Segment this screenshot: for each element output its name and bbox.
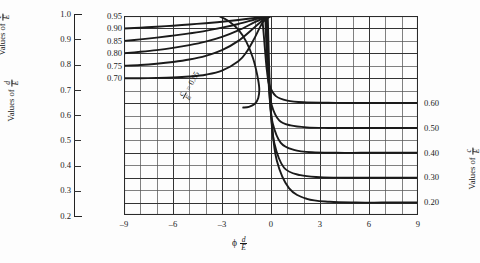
ce-right-tick-label: 0.50 — [424, 124, 439, 133]
curve-c-e-0-60 — [262, 16, 418, 103]
x-axis-denominator: E — [240, 243, 247, 252]
ce-left-title-text: Values of — [0, 23, 7, 55]
x-tick-label: –3 — [218, 220, 227, 229]
de-scale-tick-label: 1.0 — [60, 10, 71, 19]
de-scale-tick — [74, 191, 81, 192]
curve-c-e-0-50 — [265, 16, 418, 128]
ce-left-tick-label: 0.95 — [107, 12, 122, 21]
ce-left-tick-label: 0.85 — [107, 37, 122, 46]
de-scale-tick — [74, 115, 81, 116]
x-tick-label: –6 — [169, 220, 178, 229]
x-tick-label: 9 — [416, 220, 420, 229]
phi-symbol: ϕ — [232, 238, 237, 248]
de-scale-tick — [74, 90, 81, 91]
x-tick-label: 3 — [318, 220, 322, 229]
ce-left-tick-label: 0.80 — [107, 49, 122, 58]
curve-c-e-0-40 — [266, 16, 418, 153]
ce-right-tick-label: 0.30 — [424, 173, 439, 182]
x-tick-label: 6 — [367, 220, 371, 229]
ce-left-fraction: c E — [0, 14, 11, 21]
ce-left-denominator: E — [3, 14, 12, 21]
de-scale-tick-label: 0.6 — [60, 111, 71, 120]
curve-c-e-0-20 — [268, 16, 418, 203]
ce-right-denominator: E — [473, 148, 480, 155]
de-scale-tick — [74, 216, 82, 217]
de-scale-tick — [74, 65, 81, 66]
de-numerator: d — [4, 80, 12, 86]
plot-svg — [124, 16, 418, 215]
de-denominator: E — [12, 80, 21, 87]
ce-left-tick-label: 0.75 — [107, 62, 122, 71]
de-fraction: d E — [4, 80, 20, 87]
ce-right-fraction: c E — [465, 148, 480, 155]
ce-right-tick-label: 0.40 — [424, 149, 439, 158]
ce-left-scale: 0.950.900.850.800.750.70 — [100, 13, 124, 97]
plot-area — [124, 16, 418, 215]
x-axis-numerator: d — [241, 236, 247, 244]
de-scale-tick — [74, 140, 81, 141]
de-scale-bar: 1.00.90.80.70.60.50.40.30.2 — [74, 14, 88, 216]
de-scale-tick-label: 0.2 — [60, 212, 71, 221]
de-scale-tick-label: 0.8 — [60, 60, 71, 69]
de-scale-tick — [74, 166, 81, 167]
ce-right-axis-title: Values of c E — [465, 147, 480, 190]
de-scale-tick-label: 0.9 — [60, 35, 71, 44]
de-axis-title-text: Values of — [6, 89, 16, 121]
ce-left-tick-label: 0.70 — [107, 74, 122, 83]
ce-left-tick-label: 0.90 — [107, 24, 122, 33]
figure-root: 1.00.90.80.70.60.50.40.30.2 Values of d … — [0, 0, 480, 263]
x-axis-fraction: d E — [240, 236, 247, 252]
x-axis-title: ϕ d E — [0, 236, 480, 252]
ce-right-tick-label: 0.60 — [424, 99, 439, 108]
de-scale-tick — [74, 14, 82, 15]
de-scale-tick-label: 0.3 — [60, 186, 71, 195]
ce-left-axis-title: Values of c E — [0, 13, 12, 56]
x-tick-label: –9 — [120, 220, 129, 229]
curve-c-e-0-90 — [124, 16, 271, 28]
x-tick-label: 0 — [269, 220, 273, 229]
de-axis-title: Values of d E — [4, 79, 20, 122]
de-scale-tick — [74, 39, 81, 40]
ce-right-tick-label: 0.20 — [424, 198, 439, 207]
de-scale-tick-label: 0.7 — [60, 86, 71, 95]
ce-right-numerator: c — [465, 148, 473, 153]
ce-right-title-text: Values of — [467, 157, 477, 189]
de-scale-tick-label: 0.5 — [60, 136, 71, 145]
de-scale-tick-label: 0.4 — [60, 161, 71, 170]
